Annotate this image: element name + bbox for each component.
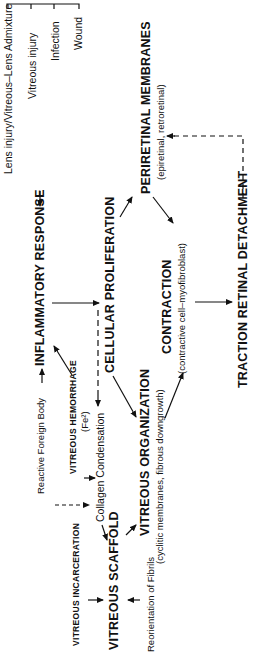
arrow-organization-to-contraction	[165, 373, 183, 418]
node-vitreous-hemorrhage-note: (Fe²)	[80, 411, 90, 432]
cause-vitreous-injury: Vitreous injury	[27, 33, 38, 99]
arrow-scaffold-to-organization	[126, 525, 136, 535]
node-traction-retinal-detachment: TRACTION RETINAL DETACHMENT	[237, 171, 250, 388]
node-periretinal-membranes: PERIRETINAL MEMBRANES	[140, 21, 153, 194]
cause-wound: Wound	[73, 17, 84, 50]
node-vitreous-incarceration: VITREOUS INCARCERATION	[72, 523, 81, 646]
node-contraction-note: (contractive cell–myofibroblast)	[177, 243, 187, 374]
dashed-traction-to-periretinal	[168, 136, 243, 198]
node-vitreous-organization-note: (cyclitic membranes, fibrous downgrowth)	[155, 389, 165, 564]
arrow-proliferation-to-periretinal	[120, 197, 132, 217]
flow-diagram: Lens injury/Vitreous–Lens Admixture Vitr…	[0, 0, 259, 664]
cause-infection: Infection	[50, 21, 61, 61]
node-vitreous-hemorrhage: VITREOUS HEMORRHAGE	[69, 360, 78, 474]
node-cellular-proliferation: CELLULAR PROLIFERATION	[104, 197, 117, 373]
node-inflammatory-response: INFLAMMATORY RESPONSE	[34, 189, 47, 366]
node-collagen-condensation: Collagen Condensation	[95, 413, 106, 522]
node-vitreous-organization: VITREOUS ORGANIZATION	[139, 369, 152, 536]
arrow-periretinal-to-contraction	[153, 197, 173, 223]
causes-bracket	[7, 4, 79, 9]
node-periretinal-membranes-note: (epiretinal, retroretinal)	[156, 84, 166, 180]
cause-lens-injury: Lens injury/Vitreous–Lens Admixture	[3, 4, 14, 174]
node-reorientation-of-fibrils: Reorientation of Fibrils	[146, 557, 156, 652]
node-reactive-foreign-body: Reactive Foreign Body	[36, 398, 46, 494]
arrow-proliferation-to-organization	[113, 376, 136, 417]
node-contraction: CONTRACTION	[161, 259, 174, 354]
node-vitreous-scaffold: VITREOUS SCAFFOLD	[108, 511, 121, 650]
